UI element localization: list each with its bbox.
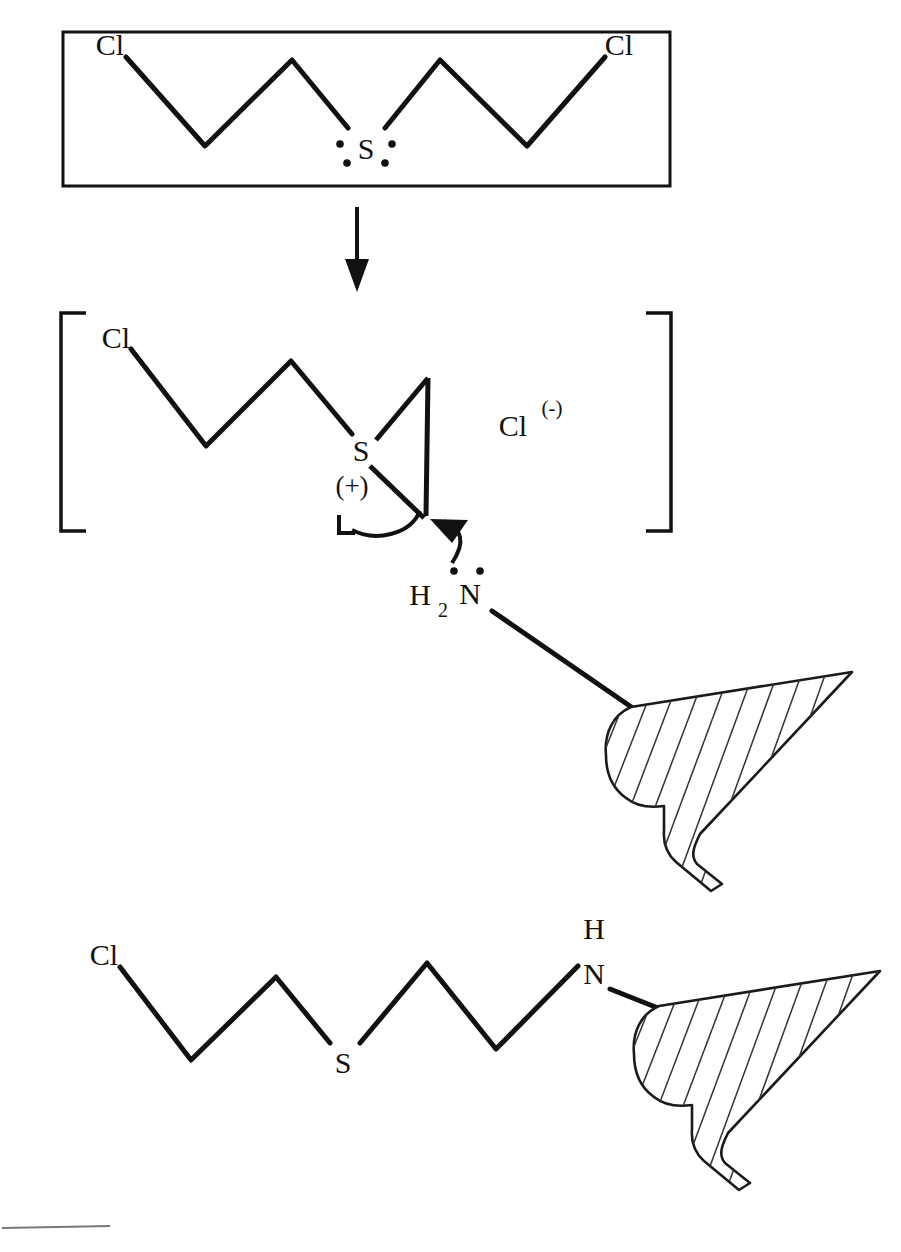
curly-arrow-nucleophile-attack xyxy=(430,519,468,563)
reactant-box-group: Cl Cl S xyxy=(63,28,670,186)
nitrogen-lone-pair xyxy=(450,567,484,575)
bond-product-right-chain xyxy=(360,963,578,1049)
reactant-sulfur-label: S xyxy=(358,132,375,165)
product-chlorine-label: Cl xyxy=(90,938,118,971)
nucleophile-hydrogen-label: H xyxy=(409,578,431,611)
nucleophile-nitrogen-label: N xyxy=(459,577,481,610)
reaction-scheme-figure: Cl Cl S Cl xyxy=(0,0,901,1252)
hatch-line xyxy=(548,999,628,1199)
hatch-line xyxy=(495,710,575,900)
counter-ion-chloride-label: Cl xyxy=(499,409,527,442)
reactant-right-chlorine-label: Cl xyxy=(605,28,633,61)
bracket-left xyxy=(61,313,86,531)
lone-pair-dot xyxy=(343,159,351,167)
reaction-scheme-canvas: Cl Cl S Cl xyxy=(0,0,901,1252)
product-group: Cl S N H xyxy=(90,912,668,1079)
bond-left-chain xyxy=(126,57,348,146)
counter-ion-charge-label: (-) xyxy=(542,396,563,420)
hatch-line xyxy=(545,700,625,900)
product-nitrogen-hydrogen-label: H xyxy=(583,912,605,945)
hatch-line xyxy=(520,700,600,900)
macromolecule-lower xyxy=(523,969,898,1199)
curly-arrow-ring-opening-path xyxy=(352,511,420,536)
macromolecule-upper xyxy=(495,670,870,900)
intermediate-group: Cl S (+) Cl (-) H 2 N xyxy=(61,313,671,713)
lone-pair-dot xyxy=(476,567,484,575)
bond-intermediate-chain xyxy=(131,349,352,446)
reaction-arrow-head xyxy=(345,259,369,292)
bond-ring-s-to-ch2 xyxy=(370,466,424,518)
hatch-line xyxy=(523,1009,603,1199)
reaction-arrow xyxy=(345,207,369,292)
lone-pair-dot xyxy=(336,140,344,148)
bond-nitrogen-to-macromolecule xyxy=(492,611,640,713)
lone-pair-dot xyxy=(381,159,389,167)
product-sulfur-label: S xyxy=(335,1046,352,1079)
nucleophile-hydrogen-subscript: 2 xyxy=(438,599,448,621)
bond-product-left-chain xyxy=(120,967,330,1060)
lone-pair-dot xyxy=(450,567,458,575)
product-nitrogen-label: N xyxy=(583,957,605,990)
reactant-left-chlorine-label: Cl xyxy=(96,28,124,61)
bond-ring-s-to-apex xyxy=(376,378,428,440)
intermediate-sulfur-label: S xyxy=(353,434,370,467)
bond-ring-apex-to-ch2 xyxy=(426,378,428,516)
lone-pair-dot xyxy=(388,140,396,148)
sulfur-positive-charge-label: (+) xyxy=(335,471,368,501)
hatch-line xyxy=(573,999,653,1199)
bracket-right xyxy=(646,313,671,531)
bond-right-chain xyxy=(385,57,605,146)
footnote-separator-rule xyxy=(2,1226,110,1228)
intermediate-chlorine-label: Cl xyxy=(102,321,130,354)
curly-arrow-ring-opening xyxy=(339,511,420,536)
